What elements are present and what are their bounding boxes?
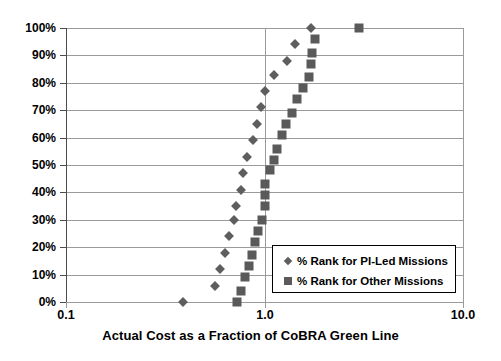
x-axis-tick-label: 10.0 bbox=[433, 308, 493, 322]
data-point-other bbox=[236, 287, 245, 296]
y-axis-tick-label: 80% bbox=[0, 77, 56, 89]
legend-label-other: % Rank for Other Missions bbox=[295, 275, 443, 287]
data-point-other bbox=[270, 155, 279, 164]
data-point-other bbox=[248, 251, 257, 260]
y-axis-tick-label: 30% bbox=[0, 214, 56, 226]
y-axis-tick-label: 90% bbox=[0, 49, 56, 61]
data-point-other bbox=[308, 48, 317, 57]
x-axis-tick-label: 1.0 bbox=[235, 308, 295, 322]
data-point-other bbox=[307, 59, 316, 68]
data-point-other bbox=[304, 73, 313, 82]
data-point-other bbox=[254, 226, 263, 235]
y-axis-tick bbox=[60, 192, 67, 193]
data-point-other bbox=[278, 130, 287, 139]
y-axis-tick-label: 100% bbox=[0, 22, 56, 34]
y-axis-tick bbox=[60, 275, 67, 276]
data-point-other bbox=[260, 202, 269, 211]
square-marker-icon bbox=[281, 277, 295, 285]
data-point-other bbox=[273, 144, 282, 153]
diamond-marker-icon bbox=[281, 258, 295, 264]
y-axis-tick bbox=[60, 165, 67, 166]
data-point-other bbox=[251, 237, 260, 246]
data-point-other bbox=[261, 180, 270, 189]
y-axis-tick-label: 50% bbox=[0, 159, 56, 171]
y-axis-tick-label: 10% bbox=[0, 269, 56, 281]
y-axis-tick bbox=[60, 220, 67, 221]
x-axis-tick-label: 0.1 bbox=[36, 308, 96, 322]
data-point-other bbox=[282, 119, 291, 128]
chart-legend: % Rank for PI-Led Missions % Rank for Ot… bbox=[272, 245, 456, 293]
data-point-other bbox=[293, 95, 302, 104]
legend-item-other: % Rank for Other Missions bbox=[281, 271, 449, 291]
y-axis-tick-label: 70% bbox=[0, 104, 56, 116]
legend-item-pi-led: % Rank for PI-Led Missions bbox=[281, 251, 449, 271]
data-point-other bbox=[245, 262, 254, 271]
data-point-other bbox=[311, 34, 320, 43]
y-axis-tick-label: 60% bbox=[0, 132, 56, 144]
y-axis-tick-label: 40% bbox=[0, 186, 56, 198]
data-point-other bbox=[265, 166, 274, 175]
y-axis-tick bbox=[60, 247, 67, 248]
data-point-other bbox=[233, 298, 242, 307]
y-axis-tick-label: 20% bbox=[0, 241, 56, 253]
legend-label-pi-led: % Rank for PI-Led Missions bbox=[295, 255, 448, 267]
y-axis-tick bbox=[60, 55, 67, 56]
y-axis-tick bbox=[60, 83, 67, 84]
data-point-other bbox=[355, 24, 364, 33]
x-axis-title: Actual Cost as a Fraction of CoBRA Green… bbox=[0, 328, 501, 343]
y-axis-tick bbox=[60, 28, 67, 29]
plot-right-border bbox=[463, 28, 464, 303]
data-point-other bbox=[299, 84, 308, 93]
y-axis-tick-label: 0% bbox=[0, 296, 56, 308]
data-point-other bbox=[257, 215, 266, 224]
y-axis-tick bbox=[60, 138, 67, 139]
y-axis-tick bbox=[60, 110, 67, 111]
data-point-other bbox=[241, 273, 250, 282]
data-point-other bbox=[260, 191, 269, 200]
chart-root: 0%10%20%30%40%50%60%70%80%90%100% 0.11.0… bbox=[0, 0, 501, 361]
data-point-other bbox=[287, 108, 296, 117]
